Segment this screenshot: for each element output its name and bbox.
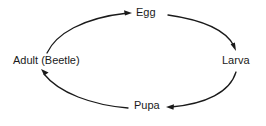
node-label-larva: Larva (220, 54, 252, 67)
arrow-pupa-to-adult-path (44, 74, 128, 108)
arrow-egg-to-larva-path (168, 15, 234, 46)
arrow-larva-to-pupa-path (171, 72, 236, 107)
node-label-pupa: Pupa (132, 99, 162, 112)
arrow-adult-to-egg-head (124, 10, 132, 15)
beetle-life-cycle-diagram: Egg Larva Pupa Adult (Beetle) (0, 0, 266, 126)
arrow-pupa-to-adult-head (41, 69, 49, 76)
arrow-larva-to-pupa-head (166, 104, 174, 110)
arrow-adult-to-egg (47, 10, 132, 53)
arrow-adult-to-egg-path (47, 13, 128, 53)
arrow-pupa-to-adult (41, 69, 128, 108)
node-label-adult: Adult (Beetle) (11, 54, 82, 67)
arrow-egg-to-larva (168, 15, 236, 51)
arrow-egg-to-larva-head (231, 43, 236, 51)
node-label-egg: Egg (134, 6, 158, 19)
arrow-larva-to-pupa (166, 72, 236, 110)
